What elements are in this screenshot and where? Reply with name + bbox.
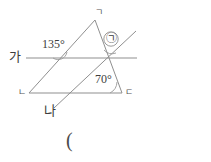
caption-paren: ( (66, 130, 73, 150)
line-label-ga: 가 (9, 50, 21, 63)
angle-label-135: 135° (42, 38, 65, 50)
triangle-edge-ga-na (29, 20, 95, 93)
angle-label-unknown: ㉠ (106, 33, 117, 44)
angle-label-70: 70° (95, 73, 112, 85)
vertex-label-bottom-right: ㄷ (125, 88, 133, 97)
vertex-label-top: ㄱ (95, 8, 103, 17)
line-label-na: 나 (44, 104, 56, 117)
vertex-label-bottom-left: ㄴ (18, 88, 26, 97)
line-na (54, 31, 136, 108)
